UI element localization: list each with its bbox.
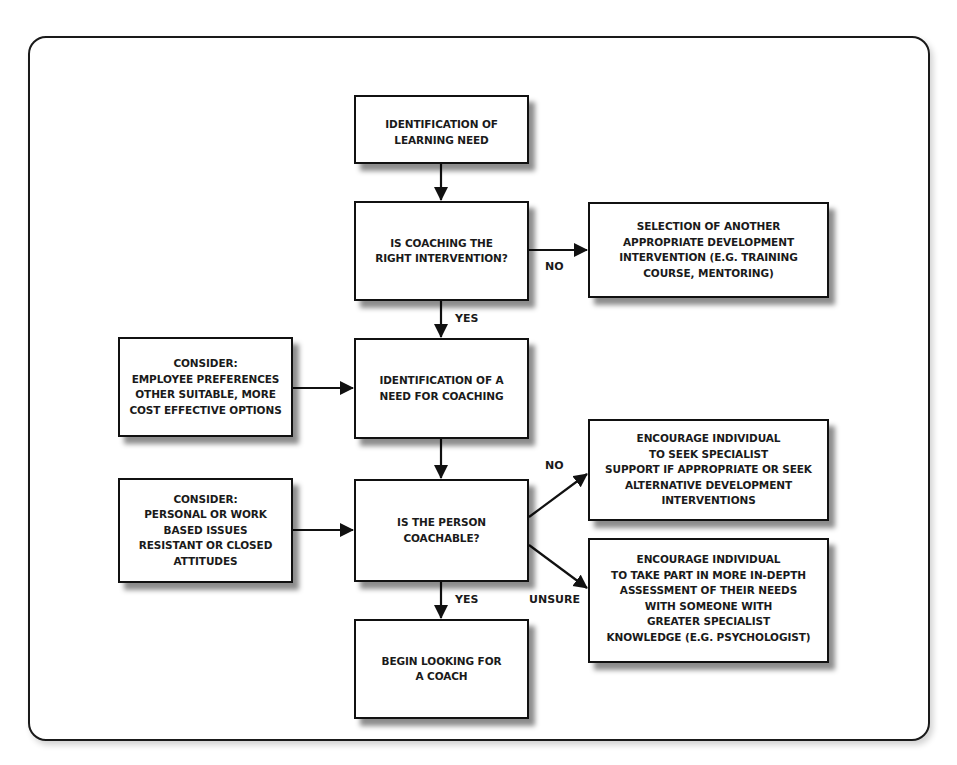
node-text: APPROPRIATE DEVELOPMENT bbox=[623, 235, 794, 251]
node-identification-of-learning-need: IDENTIFICATION OF LEARNING NEED bbox=[354, 95, 529, 164]
node-text: COURSE, MENTORING) bbox=[643, 266, 774, 282]
node-is-person-coachable: IS THE PERSON COACHABLE? bbox=[354, 479, 529, 582]
node-text: COST EFFECTIVE OPTIONS bbox=[129, 403, 281, 419]
node-text: ATTITUDES bbox=[173, 554, 237, 570]
node-begin-looking-for-coach: BEGIN LOOKING FOR A COACH bbox=[354, 619, 529, 719]
node-text: SELECTION OF ANOTHER bbox=[637, 219, 781, 235]
node-text: CONSIDER: bbox=[173, 492, 237, 508]
node-text: OTHER SUITABLE, MORE bbox=[135, 387, 275, 403]
node-text: TO SEEK SPECIALIST bbox=[649, 447, 768, 463]
node-text: SUPPORT IF APPROPRIATE OR SEEK bbox=[605, 462, 812, 478]
edge-label-yes: YES bbox=[455, 593, 478, 606]
node-text: CONSIDER: bbox=[173, 356, 237, 372]
node-encourage-seek-specialist: ENCOURAGE INDIVIDUAL TO SEEK SPECIALIST … bbox=[588, 419, 829, 521]
node-text: LEARNING NEED bbox=[394, 133, 488, 149]
node-text: IS THE PERSON bbox=[397, 515, 486, 531]
edge-label-unsure: UNSURE bbox=[529, 593, 580, 606]
node-text: INTERVENTIONS bbox=[661, 493, 755, 509]
node-text: GREATER SPECIALIST bbox=[647, 614, 770, 630]
node-text: ALTERNATIVE DEVELOPMENT bbox=[625, 478, 792, 494]
node-consider-employee-preferences: CONSIDER: EMPLOYEE PREFERENCES OTHER SUI… bbox=[118, 337, 293, 437]
node-text: KNOWLEDGE (E.G. PSYCHOLOGIST) bbox=[607, 630, 811, 646]
node-text: BASED ISSUES bbox=[164, 523, 248, 539]
node-text: RIGHT INTERVENTION? bbox=[375, 251, 507, 267]
node-text: RESISTANT OR CLOSED bbox=[139, 538, 273, 554]
node-text: TO TAKE PART IN MORE IN-DEPTH bbox=[611, 568, 806, 584]
node-text: ASSESSMENT OF THEIR NEEDS bbox=[620, 583, 797, 599]
node-text: IDENTIFICATION OF A bbox=[379, 373, 503, 389]
node-text: NEED FOR COACHING bbox=[380, 389, 504, 405]
node-encourage-in-depth-assessment: ENCOURAGE INDIVIDUAL TO TAKE PART IN MOR… bbox=[588, 538, 829, 663]
node-selection-of-another-intervention: SELECTION OF ANOTHER APPROPRIATE DEVELOP… bbox=[588, 202, 829, 298]
node-text: BEGIN LOOKING FOR bbox=[382, 654, 502, 670]
node-text: PERSONAL OR WORK bbox=[144, 507, 267, 523]
node-text: IS COACHING THE bbox=[390, 236, 493, 252]
node-consider-personal-issues: CONSIDER: PERSONAL OR WORK BASED ISSUES … bbox=[118, 478, 293, 583]
node-text: WITH SOMEONE WITH bbox=[645, 599, 772, 615]
node-text: COACHABLE? bbox=[403, 531, 479, 547]
edge-label-yes: YES bbox=[455, 312, 478, 325]
node-identification-of-need-for-coaching: IDENTIFICATION OF A NEED FOR COACHING bbox=[354, 338, 529, 439]
node-text: IDENTIFICATION OF bbox=[385, 117, 498, 133]
node-text: ENCOURAGE INDIVIDUAL bbox=[637, 552, 781, 568]
node-text: ENCOURAGE INDIVIDUAL bbox=[637, 431, 781, 447]
node-text: INTERVENTION (E.G. TRAINING bbox=[619, 250, 798, 266]
node-text: A COACH bbox=[415, 669, 467, 685]
node-text: EMPLOYEE PREFERENCES bbox=[132, 372, 280, 388]
node-is-coaching-right-intervention: IS COACHING THE RIGHT INTERVENTION? bbox=[354, 201, 529, 301]
edge-label-no: NO bbox=[545, 459, 564, 472]
edge-label-no: NO bbox=[545, 260, 564, 273]
